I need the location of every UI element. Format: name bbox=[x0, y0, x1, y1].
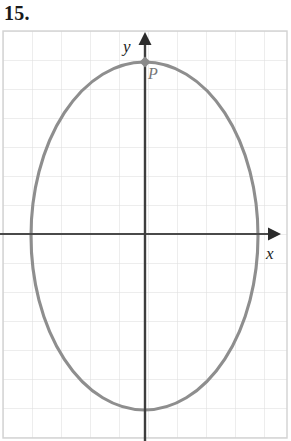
x-axis-label: x bbox=[265, 244, 274, 263]
coordinate-plane-svg: y x P bbox=[0, 0, 291, 441]
plot-area: y x P bbox=[0, 0, 291, 441]
point-p-label: P bbox=[147, 65, 158, 82]
y-axis-label: y bbox=[121, 37, 131, 56]
figure-container: 15. bbox=[0, 0, 291, 441]
